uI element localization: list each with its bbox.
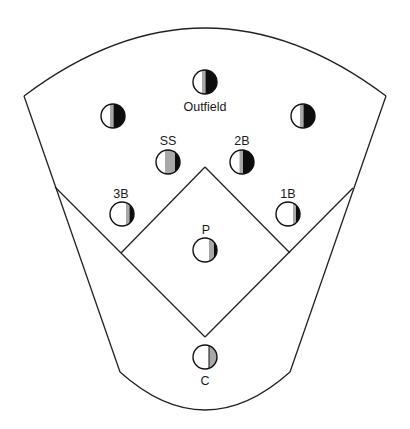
outfield-label: Outfield: [183, 100, 226, 114]
player-pitcher-icon: [193, 238, 217, 262]
left-outer-line: [24, 96, 120, 372]
pitcher-label: P: [202, 223, 210, 237]
player-right-field-icon: [291, 104, 316, 128]
player-shortstop-icon: [156, 150, 181, 174]
player-catcher-icon: [193, 345, 217, 369]
player-third-base-icon: [110, 202, 135, 226]
shortstop-label: SS: [160, 134, 177, 148]
catcher-label: C: [200, 374, 209, 388]
right-outer-line: [290, 96, 386, 372]
player-center-field-icon: [193, 70, 218, 94]
third-base-label: 3B: [113, 187, 128, 201]
player-left-field-icon: [101, 104, 126, 128]
player-first-base-icon: [276, 202, 301, 226]
player-second-base-icon: [230, 150, 255, 174]
baseball-field-diagram: Outfield SS 2B: [0, 0, 410, 429]
second-base-label: 2B: [234, 134, 249, 148]
first-base-label: 1B: [280, 187, 295, 201]
